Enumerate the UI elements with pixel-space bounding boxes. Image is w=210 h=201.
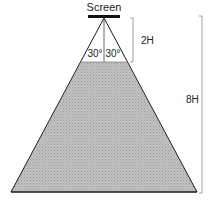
near-distance-label: 2H [141, 35, 154, 46]
angle-right-label: 30° [105, 48, 120, 59]
screen-label: Screen [87, 1, 122, 13]
screen-bar [88, 15, 120, 18]
angle-left-label: 30° [87, 48, 102, 59]
far-distance-label: 8H [186, 94, 199, 105]
far-distance-bracket [199, 16, 202, 193]
viewing-distance-diagram: Screen 30° 30° 2H 8H [0, 0, 210, 201]
viewing-zone [11, 62, 197, 192]
near-distance-bracket [130, 18, 133, 62]
